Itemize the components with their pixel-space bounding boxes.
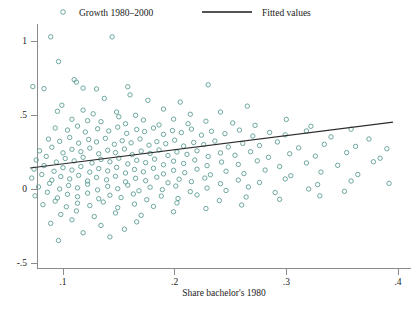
y-tick-label: 0 xyxy=(22,184,27,194)
data-point xyxy=(209,129,213,133)
data-point xyxy=(191,140,195,144)
data-point xyxy=(315,182,319,186)
data-point xyxy=(185,152,189,156)
data-point xyxy=(246,185,250,189)
data-point xyxy=(226,145,230,149)
data-point xyxy=(45,190,49,194)
data-point xyxy=(171,210,175,214)
data-point xyxy=(52,169,56,173)
data-point xyxy=(40,172,44,176)
data-point xyxy=(91,112,95,116)
y-tick-label: -.5 xyxy=(17,258,28,268)
data-point xyxy=(318,194,322,198)
data-point xyxy=(112,142,116,146)
data-point xyxy=(171,159,175,163)
data-point xyxy=(255,159,259,163)
data-point xyxy=(172,138,176,142)
data-point xyxy=(116,187,120,191)
x-tick-label: .4 xyxy=(394,277,401,287)
data-point xyxy=(56,238,60,242)
data-point xyxy=(266,155,270,159)
data-point xyxy=(108,235,112,239)
data-point xyxy=(59,174,63,178)
data-point xyxy=(108,160,112,164)
data-point xyxy=(257,180,261,184)
data-point xyxy=(59,212,63,216)
data-point xyxy=(218,181,222,185)
data-point xyxy=(378,156,382,160)
x-tick-label: .3 xyxy=(283,277,290,287)
data-point xyxy=(177,177,181,181)
data-point xyxy=(124,131,128,135)
data-point xyxy=(242,171,246,175)
data-point xyxy=(205,163,209,167)
data-point xyxy=(199,133,203,137)
data-point xyxy=(257,143,261,147)
data-point xyxy=(151,204,155,208)
data-point xyxy=(179,130,183,134)
data-point xyxy=(128,93,132,97)
data-point xyxy=(218,151,222,155)
data-point xyxy=(92,214,96,218)
data-point xyxy=(49,35,53,39)
data-point xyxy=(166,153,170,157)
data-point xyxy=(102,96,106,100)
data-point xyxy=(135,158,139,162)
data-point xyxy=(203,176,207,180)
data-point xyxy=(95,188,99,192)
data-point xyxy=(160,187,164,191)
data-point xyxy=(135,127,139,131)
data-point xyxy=(253,123,257,127)
data-point xyxy=(251,134,255,138)
data-point xyxy=(151,126,155,130)
data-point xyxy=(277,164,281,168)
data-point xyxy=(75,124,79,128)
data-point xyxy=(117,115,121,119)
data-point xyxy=(30,176,34,180)
data-point xyxy=(367,137,371,141)
data-point xyxy=(88,170,92,174)
data-point xyxy=(94,87,98,91)
legend: Growth 1980–2000 Fitted values xyxy=(61,8,311,18)
data-point xyxy=(65,192,69,196)
data-point xyxy=(219,160,223,164)
data-point xyxy=(344,150,348,154)
data-point xyxy=(61,165,65,169)
x-axis-ticks: .1.2.3.4 xyxy=(59,269,401,288)
data-point xyxy=(245,104,249,108)
data-point xyxy=(349,179,353,183)
data-point xyxy=(263,168,267,172)
data-point xyxy=(114,165,118,169)
data-point xyxy=(65,128,69,132)
data-point xyxy=(104,178,108,182)
data-point xyxy=(356,172,360,176)
data-point xyxy=(146,98,150,102)
data-point xyxy=(70,147,74,151)
data-point xyxy=(195,193,199,197)
data-point xyxy=(75,201,79,205)
data-point xyxy=(105,169,109,173)
data-point xyxy=(60,103,64,107)
data-point xyxy=(147,143,151,147)
data-point xyxy=(161,132,165,136)
data-point xyxy=(97,166,101,170)
data-point xyxy=(95,127,99,131)
data-point xyxy=(204,119,208,123)
data-point xyxy=(206,154,210,158)
data-point xyxy=(248,150,252,154)
y-axis-ticks: 1.50-.5 xyxy=(17,36,38,268)
data-point xyxy=(66,183,70,187)
data-point xyxy=(70,117,74,121)
data-point xyxy=(110,35,114,39)
data-point xyxy=(275,140,279,144)
data-point xyxy=(141,170,145,174)
data-point xyxy=(85,191,89,195)
data-point xyxy=(143,160,147,164)
data-point xyxy=(86,137,90,141)
data-point xyxy=(54,160,58,164)
data-point xyxy=(61,151,65,155)
data-point xyxy=(74,209,78,213)
data-point xyxy=(105,148,109,152)
data-point xyxy=(70,218,74,222)
data-point xyxy=(126,85,130,89)
